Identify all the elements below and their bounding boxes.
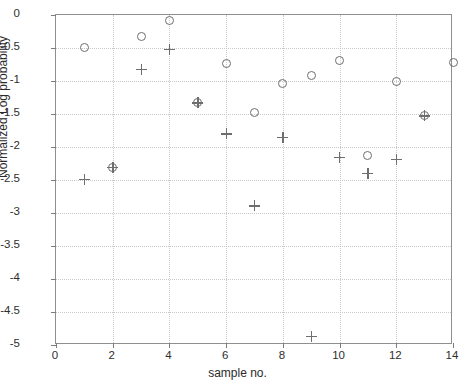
y-tick-mark — [51, 81, 56, 82]
gridline-horizontal — [56, 48, 451, 49]
x-tick-label: 6 — [205, 350, 245, 362]
data-point-plus — [192, 97, 203, 108]
x-tick-label: 0 — [35, 350, 75, 362]
data-point-plus — [419, 110, 430, 121]
y-tick-mark — [51, 180, 56, 181]
x-tick-mark — [169, 343, 170, 348]
y-tick-label: -2 — [10, 140, 20, 152]
y-tick-label: -4.5 — [0, 305, 20, 317]
y-tick-mark — [51, 15, 56, 16]
plot-area — [55, 14, 452, 344]
gridline-vertical — [396, 15, 397, 343]
y-tick-label: -0.5 — [0, 41, 20, 53]
data-point-plus — [277, 132, 288, 143]
data-point-plus — [306, 331, 317, 342]
x-tick-mark — [113, 343, 114, 348]
data-point-circle — [250, 108, 259, 117]
data-point-plus — [136, 64, 147, 75]
y-tick-mark — [51, 48, 56, 49]
y-tick-mark — [51, 213, 56, 214]
y-tick-label: -1 — [10, 74, 20, 86]
x-tick-mark — [453, 343, 454, 348]
x-tick-mark — [56, 343, 57, 348]
gridline-vertical — [169, 15, 170, 343]
y-tick-label: -3.5 — [0, 239, 20, 251]
y-tick-label: -2.5 — [0, 173, 20, 185]
data-point-plus — [221, 128, 232, 139]
y-tick-label: -5 — [10, 338, 20, 350]
data-point-circle — [165, 16, 174, 25]
y-tick-mark — [51, 147, 56, 148]
x-tick-mark — [226, 343, 227, 348]
data-point-circle — [363, 151, 372, 160]
data-point-circle — [392, 77, 401, 86]
y-tick-label: -3 — [10, 206, 20, 218]
y-tick-label: 0 — [14, 8, 20, 20]
y-tick-label: -4 — [10, 272, 20, 284]
data-point-plus — [362, 168, 373, 179]
y-tick-mark — [51, 114, 56, 115]
x-tick-label: 2 — [92, 350, 132, 362]
x-tick-label: 10 — [319, 350, 359, 362]
x-tick-mark — [283, 343, 284, 348]
x-tick-mark — [340, 343, 341, 348]
x-axis-title: sample no. — [0, 366, 475, 380]
data-point-circle — [137, 32, 146, 41]
gridline-horizontal — [56, 147, 451, 148]
x-tick-label: 4 — [148, 350, 188, 362]
gridline-vertical — [113, 15, 114, 343]
gridline-horizontal — [56, 180, 451, 181]
gridline-horizontal — [56, 246, 451, 247]
y-tick-mark — [51, 279, 56, 280]
data-point-plus — [249, 200, 260, 211]
gridline-horizontal — [56, 312, 451, 313]
gridline-horizontal — [56, 279, 451, 280]
data-point-plus — [391, 154, 402, 165]
data-point-plus — [79, 174, 90, 185]
data-point-circle — [335, 56, 344, 65]
data-point-circle — [449, 58, 458, 67]
gridline-horizontal — [56, 213, 451, 214]
data-point-circle — [278, 79, 287, 88]
x-tick-label: 8 — [262, 350, 302, 362]
x-tick-mark — [396, 343, 397, 348]
data-point-circle — [80, 43, 89, 52]
figure: Normalized Log probability sample no. 0-… — [0, 0, 475, 382]
data-point-plus — [107, 162, 118, 173]
x-tick-label: 12 — [375, 350, 415, 362]
gridline-vertical — [283, 15, 284, 343]
data-point-circle — [307, 71, 316, 80]
data-point-plus — [334, 152, 345, 163]
y-tick-mark — [51, 246, 56, 247]
y-tick-label: -1.5 — [0, 107, 20, 119]
data-point-circle — [222, 59, 231, 68]
y-tick-mark — [51, 312, 56, 313]
x-tick-label: 14 — [432, 350, 472, 362]
data-point-plus — [164, 44, 175, 55]
